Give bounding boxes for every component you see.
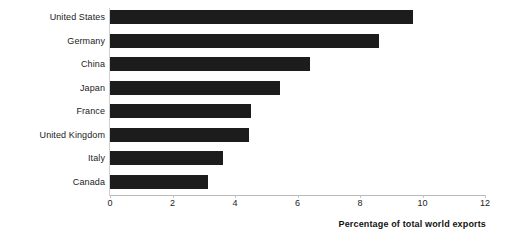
category-label-0: United States xyxy=(50,12,105,23)
x-tick-label-8: 8 xyxy=(357,198,362,209)
bar-7 xyxy=(110,175,208,189)
table-row: China xyxy=(0,57,513,71)
category-label-2: China xyxy=(81,59,105,70)
plot-area: United States Germany China Japan France… xyxy=(0,0,513,250)
category-label-7: Canada xyxy=(73,176,105,187)
bar-4 xyxy=(110,104,251,118)
category-label-5: United Kingdom xyxy=(40,129,105,140)
x-tick-label-4: 4 xyxy=(232,198,237,209)
bar-0 xyxy=(110,10,413,24)
category-label-3: Japan xyxy=(80,82,105,93)
table-row: Italy xyxy=(0,151,513,165)
x-tick-label-10: 10 xyxy=(417,198,427,209)
category-label-4: France xyxy=(76,106,105,117)
table-row: France xyxy=(0,104,513,118)
bar-chart: United States Germany China Japan France… xyxy=(0,0,513,250)
x-tick-label-2: 2 xyxy=(170,198,175,209)
category-label-6: Italy xyxy=(88,153,105,164)
bar-5 xyxy=(110,128,249,142)
x-tick-label-6: 6 xyxy=(295,198,300,209)
bar-3 xyxy=(110,81,280,95)
table-row: Japan xyxy=(0,81,513,95)
category-label-1: Germany xyxy=(67,35,105,46)
bar-2 xyxy=(110,57,310,71)
x-tick-label-12: 12 xyxy=(480,198,490,209)
x-tick-label-0: 0 xyxy=(107,198,112,209)
table-row: Canada xyxy=(0,175,513,189)
x-axis-title: Percentage of total world exports xyxy=(339,219,486,230)
table-row: Germany xyxy=(0,34,513,48)
table-row: United States xyxy=(0,10,513,24)
table-row: United Kingdom xyxy=(0,128,513,142)
bar-6 xyxy=(110,151,223,165)
bar-1 xyxy=(110,34,379,48)
